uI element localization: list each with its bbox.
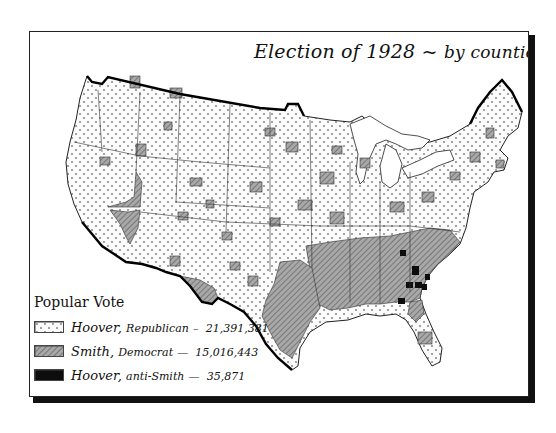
legend-item-hoover-republican: Hoover, Republican – 21,391,381: [34, 316, 269, 338]
title-text: Election of 1928: [254, 40, 415, 62]
legend-label: Hoover, Republican – 21,391,381: [71, 320, 269, 335]
title-separator: ~: [422, 40, 438, 62]
map-title: Election of 1928 ~ by counties: [254, 40, 529, 62]
solid-black-swatch-icon: [34, 369, 64, 381]
legend: Popular Vote Hoover, Republican – 21,391…: [34, 294, 269, 388]
legend-title: Popular Vote: [34, 294, 269, 310]
hatched-swatch-icon: [34, 345, 64, 357]
legend-label: Hoover, anti-Smith — 35,871: [71, 368, 245, 383]
dotted-swatch-icon: [34, 321, 64, 333]
legend-item-hoover-anti-smith: Hoover, anti-Smith — 35,871: [34, 364, 269, 386]
map-frame: Election of 1928 ~ by counties Popular V…: [29, 31, 529, 397]
legend-item-smith-democrat: Smith, Democrat — 15,016,443: [34, 340, 269, 362]
subtitle-text: by counties: [444, 42, 529, 62]
legend-label: Smith, Democrat — 15,016,443: [71, 344, 258, 359]
